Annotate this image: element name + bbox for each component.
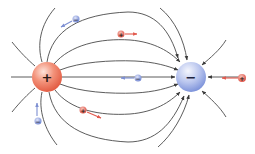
svg-text:+: + [118, 31, 123, 38]
test-charge-positive: + [80, 107, 87, 114]
field-line [40, 8, 55, 62]
svg-text:−: − [135, 75, 140, 82]
test-charge-negative: − [135, 75, 142, 82]
test-charges: − + − + + − [35, 16, 247, 125]
diagram-canvas: + − − + − + + [0, 0, 255, 154]
field-line [202, 91, 226, 117]
field-line [12, 88, 35, 112]
test-charge-positive: + [238, 74, 246, 83]
field-line [60, 84, 178, 93]
electric-field-diagram: + − − + − + + [0, 0, 255, 154]
svg-text:+: + [239, 75, 244, 83]
negative-sink-charge: − [176, 62, 206, 92]
field-line [12, 42, 35, 66]
test-charge-negative: − [35, 118, 42, 125]
field-line [158, 95, 189, 147]
field-line [49, 92, 184, 142]
field-line [160, 8, 187, 60]
velocity-arrows [37, 21, 238, 118]
field-line [41, 92, 57, 145]
svg-text:−: − [73, 16, 78, 23]
field-line [47, 12, 178, 62]
svg-text:+: + [80, 107, 85, 114]
positive-source-charge: + [32, 62, 62, 92]
test-charge-negative: − [73, 16, 80, 23]
test-charge-positive: + [118, 31, 125, 38]
field-line [60, 61, 178, 70]
minus-sign: − [186, 70, 197, 85]
svg-text:−: − [35, 118, 40, 125]
field-line [202, 40, 226, 65]
plus-sign: + [42, 70, 53, 85]
